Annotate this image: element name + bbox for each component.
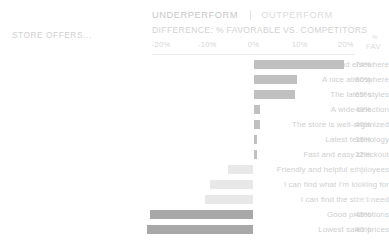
row-favorable-value: 65% [355,87,371,102]
difference-axis-title: DIFFERENCE: % FAVORABLE VS. COMPETITORS [152,25,367,35]
outperform-label: OUTPERFORM [261,10,333,20]
survey-diverging-bar-chart: UNDERPERFORM OUTPERFORM DIFFERENCE: % FA… [0,0,389,252]
value-bar [254,105,261,114]
chart-row: Good promotions45% [0,207,389,222]
row-favorable-value: 74% [355,57,371,72]
legend-divider [250,10,251,20]
value-bar [150,210,254,219]
chart-row: Friendly and helpful employees30% [0,162,389,177]
x-tick-20: 20% [338,40,354,49]
chart-row: A wide selection49% [0,102,389,117]
value-bar [205,195,254,204]
x-tick-0: 0% [248,40,259,49]
row-favorable-value: 28% [355,177,371,192]
row-favorable-value: 30% [355,162,371,177]
x-axis-rule [152,54,355,55]
category-column-title: STORE OFFERS... [12,30,91,40]
row-favorable-value: 36% [355,132,371,147]
chart-row: Items I can't find elsewhere74% [0,57,389,72]
fav-percent-symbol: % [372,33,378,40]
chart-row: The latest styles65% [0,87,389,102]
row-favorable-value: 32% [355,147,371,162]
bar-rows: Items I can't find elsewhere74%A nice at… [0,57,389,237]
chart-row: Latest technology36% [0,132,389,147]
x-tick--10: -10% [198,40,217,49]
value-bar [147,225,253,234]
row-favorable-value: 80% [355,72,371,87]
value-bar [254,60,344,69]
chart-row: I can find the size I need26% [0,192,389,207]
x-tick--20: -20% [152,40,171,49]
value-bar [254,120,261,129]
row-favorable-value: 26% [355,192,371,207]
value-bar [254,75,298,84]
chart-row: I can find what I'm looking for28% [0,177,389,192]
chart-row: Fast and easy checkout32% [0,147,389,162]
performance-legend: UNDERPERFORM OUTPERFORM [152,8,377,21]
value-bar [210,180,254,189]
chart-row: The store is well-organized40% [0,117,389,132]
x-tick-10: 10% [292,40,308,49]
value-bar [254,135,257,144]
value-bar [254,150,257,159]
row-favorable-value: 40% [355,117,371,132]
row-favorable-value: 45% [355,207,371,222]
chart-row: Lowest sales prices40% [0,222,389,237]
underperform-label: UNDERPERFORM [152,10,238,20]
chart-row: A nice atmosphere80% [0,72,389,87]
value-bar [228,165,253,174]
row-favorable-value: 40% [355,222,371,237]
value-bar [254,90,296,99]
x-axis-ticks: -20%-10%0%10%20% [0,40,389,52]
row-favorable-value: 49% [355,102,371,117]
